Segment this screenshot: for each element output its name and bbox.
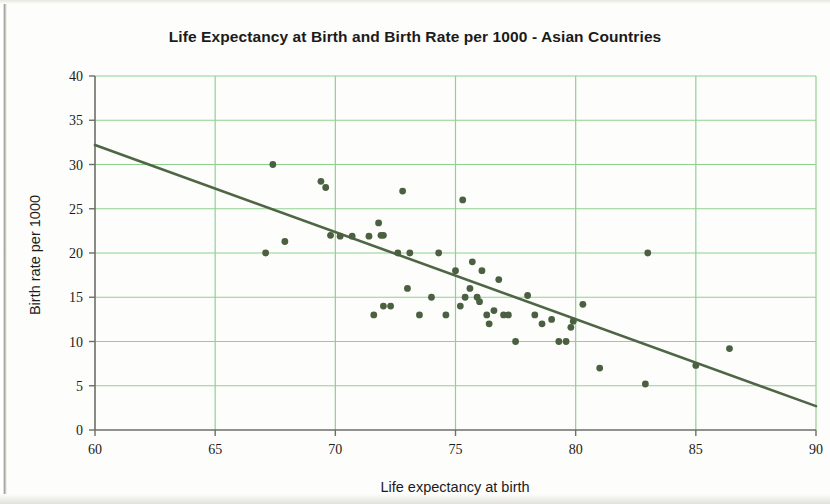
data-point — [469, 258, 476, 265]
data-point — [692, 362, 699, 369]
axis-ticks — [89, 76, 816, 436]
data-point — [452, 267, 459, 274]
x-tick-label: 90 — [809, 442, 823, 457]
data-point — [399, 188, 406, 195]
data-point — [459, 197, 466, 204]
data-point — [563, 338, 570, 345]
x-tick-label: 65 — [208, 442, 222, 457]
data-point — [539, 320, 546, 327]
data-point — [483, 312, 490, 319]
data-point — [337, 233, 344, 240]
y-axis-title: Birth rate per 1000 — [27, 195, 43, 315]
data-point — [462, 294, 469, 301]
data-point — [378, 232, 385, 239]
x-tick-label: 60 — [88, 442, 102, 457]
data-point — [644, 250, 651, 257]
y-tick-label: 30 — [69, 158, 83, 173]
data-point — [726, 345, 733, 352]
y-tick-label: 15 — [69, 290, 83, 305]
data-point — [491, 307, 498, 314]
data-point — [567, 324, 574, 331]
data-point — [404, 285, 411, 292]
scanned-chart-page: Life Expectancy at Birth and Birth Rate … — [0, 0, 830, 504]
data-point — [375, 220, 382, 227]
data-point — [380, 303, 387, 310]
data-point — [281, 238, 288, 245]
y-tick-label: 10 — [69, 335, 83, 350]
data-point — [387, 303, 394, 310]
data-point — [555, 338, 562, 345]
data-point — [495, 276, 502, 283]
y-tick-label: 20 — [69, 246, 83, 261]
data-point — [505, 312, 512, 319]
data-point — [262, 250, 269, 257]
x-axis-title: Life expectancy at birth — [380, 479, 529, 495]
y-tick-label: 35 — [69, 113, 83, 128]
data-point — [524, 292, 531, 299]
scatter-chart-svg: 0510152025303540 60657075808590 Birth ra… — [0, 0, 830, 504]
data-point — [531, 312, 538, 319]
data-point — [406, 250, 413, 257]
data-point — [318, 178, 325, 185]
x-tick-label: 80 — [569, 442, 583, 457]
data-point — [442, 312, 449, 319]
data-point — [512, 338, 519, 345]
y-axis-tick-labels: 0510152025303540 — [69, 69, 83, 438]
data-point — [349, 233, 356, 240]
data-point — [457, 303, 464, 310]
data-point — [579, 301, 586, 308]
data-point — [479, 267, 486, 274]
data-point — [394, 250, 401, 257]
y-tick-label: 40 — [69, 69, 83, 84]
data-point — [269, 161, 276, 168]
data-point — [416, 312, 423, 319]
data-point — [476, 298, 483, 305]
chart-plot-area: 0510152025303540 60657075808590 Birth ra… — [0, 0, 830, 504]
x-tick-label: 70 — [328, 442, 342, 457]
data-points — [262, 161, 733, 387]
x-tick-label: 85 — [689, 442, 703, 457]
data-point — [486, 320, 493, 327]
x-tick-label: 75 — [449, 442, 463, 457]
data-point — [548, 316, 555, 323]
y-tick-label: 25 — [69, 202, 83, 217]
data-point — [435, 250, 442, 257]
y-tick-label: 5 — [76, 379, 83, 394]
data-point — [370, 312, 377, 319]
data-point — [327, 232, 334, 239]
y-tick-label: 0 — [76, 423, 83, 438]
data-point — [467, 285, 474, 292]
data-point — [642, 381, 649, 388]
x-axis-tick-labels: 60657075808590 — [88, 442, 823, 457]
data-point — [322, 184, 329, 191]
data-point — [596, 365, 603, 372]
data-point — [428, 294, 435, 301]
data-point — [570, 318, 577, 325]
data-point — [366, 233, 373, 240]
